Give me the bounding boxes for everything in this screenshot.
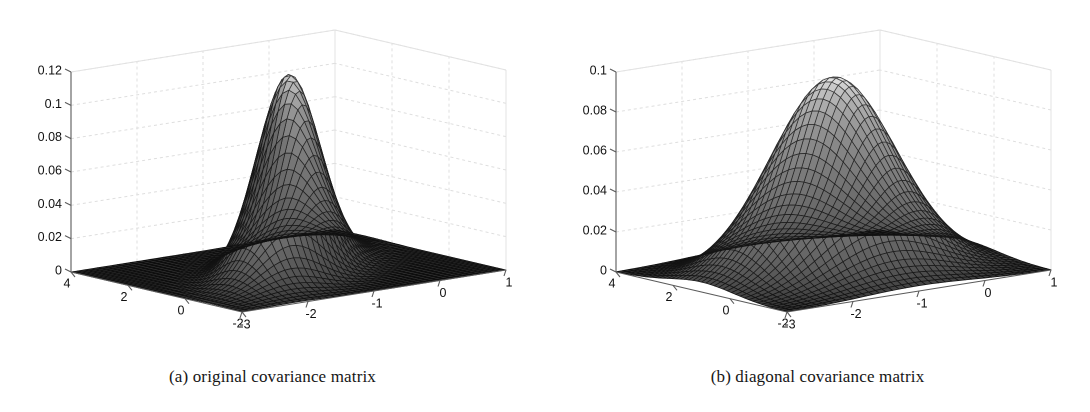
caption-original-covariance: (a) original covariance matrix	[0, 366, 545, 388]
panel-diagonal-covariance: (b) diagonal covariance matrix	[545, 0, 1090, 412]
surface-plot-diagonal-covariance	[545, 0, 1090, 360]
caption-diagonal-covariance: (b) diagonal covariance matrix	[545, 366, 1090, 388]
surface-plot-original-covariance	[0, 0, 545, 360]
figure-container: (a) original covariance matrix (b) diago…	[0, 0, 1090, 412]
panel-original-covariance: (a) original covariance matrix	[0, 0, 545, 412]
